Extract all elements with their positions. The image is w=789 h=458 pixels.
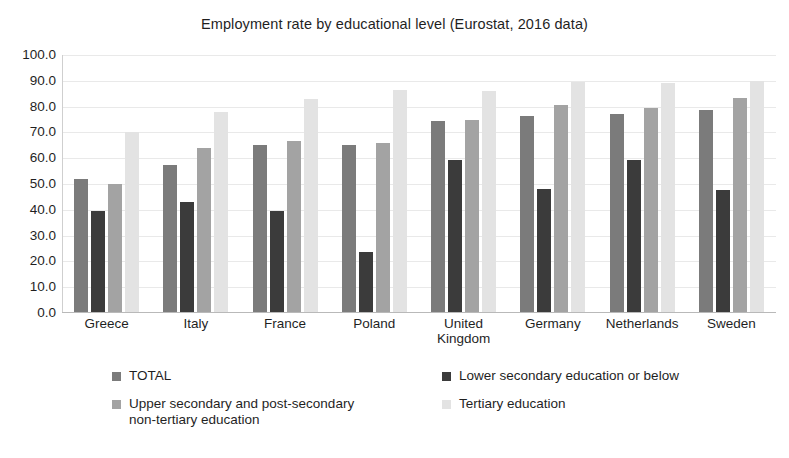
bar[interactable] xyxy=(74,179,88,313)
y-axis-tick-label: 70.0 xyxy=(0,125,56,139)
category-label-line: United xyxy=(419,316,508,331)
legend-item[interactable]: TOTAL xyxy=(112,368,442,385)
legend-label-line: TOTAL xyxy=(129,368,171,385)
bar[interactable] xyxy=(108,184,122,313)
legend-item[interactable]: Upper secondary and post-secondarynon-te… xyxy=(112,396,442,429)
x-axis-category-label: Poland xyxy=(330,316,419,346)
bar-group xyxy=(598,55,687,313)
bar[interactable] xyxy=(733,98,747,313)
x-axis-line xyxy=(62,312,776,313)
bar-groups xyxy=(62,55,776,313)
bar-cluster xyxy=(74,55,139,313)
bar[interactable] xyxy=(376,143,390,313)
bar-cluster xyxy=(431,55,496,313)
bar[interactable] xyxy=(304,99,318,313)
bar[interactable] xyxy=(750,81,764,313)
bar[interactable] xyxy=(91,211,105,313)
legend-item[interactable]: Lower secondary education or below xyxy=(442,368,752,385)
legend-swatch-icon xyxy=(442,400,451,409)
bar[interactable] xyxy=(610,114,624,313)
legend-swatch-icon xyxy=(112,400,121,409)
bar-group xyxy=(508,55,597,313)
bar[interactable] xyxy=(431,121,445,313)
y-axis-tick-label: 20.0 xyxy=(0,254,56,268)
x-axis-category-label: France xyxy=(241,316,330,346)
x-axis-category-labels: GreeceItalyFrancePolandUnitedKingdomGerm… xyxy=(62,316,776,346)
bar[interactable] xyxy=(554,105,568,313)
category-label-line: Poland xyxy=(330,316,419,331)
legend-label-line: Lower secondary education or below xyxy=(459,368,679,385)
bar[interactable] xyxy=(287,141,301,313)
category-label-line: Germany xyxy=(508,316,597,331)
bar[interactable] xyxy=(448,160,462,314)
bar[interactable] xyxy=(661,83,675,313)
legend-label-line: non-tertiary education xyxy=(129,412,354,429)
legend-label: Tertiary education xyxy=(459,396,566,413)
x-axis-category-label: Netherlands xyxy=(598,316,687,346)
legend-item[interactable]: Tertiary education xyxy=(442,396,752,429)
bar[interactable] xyxy=(214,112,228,313)
bar[interactable] xyxy=(537,189,551,313)
bar[interactable] xyxy=(520,116,534,313)
bar[interactable] xyxy=(482,91,496,313)
bar-cluster xyxy=(163,55,228,313)
bar-group xyxy=(687,55,776,313)
y-axis-tick-labels: 100.090.080.070.060.050.040.030.020.010.… xyxy=(0,55,56,313)
bar-cluster xyxy=(699,55,764,313)
legend-row: TOTALLower secondary education or below xyxy=(112,368,752,385)
legend-label-line: Upper secondary and post-secondary xyxy=(129,396,354,413)
bar[interactable] xyxy=(270,211,284,313)
bar-cluster xyxy=(610,55,675,313)
x-axis-category-label: Italy xyxy=(151,316,240,346)
bar-group xyxy=(241,55,330,313)
legend-label: Upper secondary and post-secondarynon-te… xyxy=(129,396,354,429)
bar-cluster xyxy=(342,55,407,313)
bar-group xyxy=(62,55,151,313)
legend-label: Lower secondary education or below xyxy=(459,368,679,385)
category-label-line: Greece xyxy=(62,316,151,331)
y-axis-tick-label: 0.0 xyxy=(0,306,56,320)
category-label-line: Sweden xyxy=(687,316,776,331)
bar[interactable] xyxy=(571,82,585,313)
legend-swatch-icon xyxy=(112,372,121,381)
bar[interactable] xyxy=(465,120,479,314)
bar[interactable] xyxy=(627,160,641,314)
bar[interactable] xyxy=(716,190,730,313)
plot-area xyxy=(62,55,776,313)
employment-rate-bar-chart: Employment rate by educational level (Eu… xyxy=(0,0,789,458)
bar[interactable] xyxy=(359,252,373,313)
bar-group xyxy=(419,55,508,313)
chart-title: Employment rate by educational level (Eu… xyxy=(0,16,789,32)
legend-label-line: Tertiary education xyxy=(459,396,566,413)
y-axis-tick-label: 10.0 xyxy=(0,280,56,294)
y-axis-tick-label: 40.0 xyxy=(0,203,56,217)
bar[interactable] xyxy=(393,90,407,313)
bar[interactable] xyxy=(644,108,658,313)
legend-label: TOTAL xyxy=(129,368,171,385)
bar[interactable] xyxy=(197,148,211,313)
y-axis-tick-label: 50.0 xyxy=(0,177,56,191)
bar[interactable] xyxy=(253,145,267,313)
legend-row: Upper secondary and post-secondarynon-te… xyxy=(112,396,752,429)
bar[interactable] xyxy=(180,202,194,313)
x-axis-category-label: Germany xyxy=(508,316,597,346)
y-axis-tick-label: 90.0 xyxy=(0,74,56,88)
bar-group xyxy=(151,55,240,313)
category-label-line: Italy xyxy=(151,316,240,331)
x-axis-category-label: UnitedKingdom xyxy=(419,316,508,346)
y-axis-tick-label: 60.0 xyxy=(0,151,56,165)
bar[interactable] xyxy=(125,132,139,313)
y-axis-tick-label: 100.0 xyxy=(0,48,56,62)
y-axis-tick-label: 80.0 xyxy=(0,100,56,114)
x-axis-category-label: Sweden xyxy=(687,316,776,346)
bar-cluster xyxy=(253,55,318,313)
category-label-line: France xyxy=(241,316,330,331)
bar[interactable] xyxy=(699,110,713,313)
bar[interactable] xyxy=(342,145,356,313)
legend-swatch-icon xyxy=(442,372,451,381)
chart-legend: TOTALLower secondary education or belowU… xyxy=(112,368,752,429)
bar[interactable] xyxy=(163,165,177,313)
y-axis-tick-label: 30.0 xyxy=(0,229,56,243)
category-label-line: Netherlands xyxy=(598,316,687,331)
category-label-line: Kingdom xyxy=(419,331,508,346)
